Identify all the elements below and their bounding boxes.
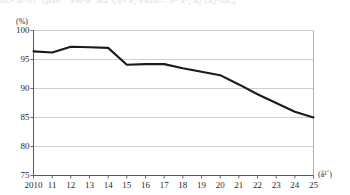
x-tick-label: 22 — [250, 180, 266, 190]
x-tick-label: 11 — [44, 180, 60, 190]
x-tick-label: 14 — [100, 180, 116, 190]
y-tick-label: 100 — [8, 26, 30, 35]
x-tick-label: 21 — [231, 180, 247, 190]
x-tick-label: 2010 — [21, 180, 47, 190]
x-tick-label: 13 — [82, 180, 98, 190]
x-tick-label: 25 — [306, 180, 322, 190]
x-tick-label: 15 — [119, 180, 135, 190]
x-tick-label: 24 — [287, 180, 303, 190]
line-chart — [0, 0, 350, 195]
y-tick-label: 80 — [8, 142, 30, 151]
x-axis-unit-label: (å¹´) — [318, 170, 332, 180]
x-tick-label: 18 — [175, 180, 191, 190]
y-tick-label: 95 — [8, 55, 30, 64]
x-tick-label: 12 — [63, 180, 79, 190]
x-tick-label: 17 — [156, 180, 172, 190]
x-tick-label: 16 — [138, 180, 154, 190]
x-tick-label: 20 — [212, 180, 228, 190]
y-tick-label: 85 — [8, 113, 30, 122]
y-tick-label: 75 — [8, 171, 30, 180]
y-tick-label: 90 — [8, 84, 30, 93]
x-tick-label: 19 — [194, 180, 210, 190]
chart-page: â€» å›³è¡¨ çµ±è¨ˆ å‰²åˆ æŽ¨ç§» è¦‹é€šã— … — [0, 0, 350, 195]
x-tick-label: 23 — [268, 180, 284, 190]
data-series-line — [34, 47, 314, 118]
